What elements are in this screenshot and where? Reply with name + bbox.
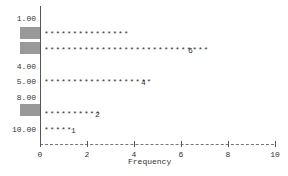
bar-row-5: ******************* [44,79,152,85]
x-tick [87,141,88,147]
x-tick [181,141,182,147]
y-label: 4.00 [17,62,36,71]
bar-row-7: ********** [44,111,101,117]
value-label: 1 [71,126,76,135]
x-tick-label: 8 [218,150,238,159]
bar-row-3: ***************************** [44,47,209,53]
y-label: 1.00 [17,14,36,23]
masked-label [20,27,40,39]
bar-row-2: *************** [44,31,130,37]
masked-label [20,42,40,54]
x-tick [134,141,135,147]
bar-row-8: ***** [44,127,73,133]
x-axis-title: Frequency [128,157,171,166]
masked-label [20,104,40,116]
y-axis [40,6,41,144]
x-axis [40,144,274,145]
x-tick-label: 10 [265,150,285,159]
y-label: 5.00 [17,77,36,86]
x-tick [40,141,41,147]
x-tick-label: 6 [171,150,191,159]
value-label: 4 [141,78,146,87]
x-tick-label: 0 [30,150,50,159]
y-label: 10.00 [12,125,36,134]
histogram-chart: 1.00 4.00 5.00 8.00 10.00 **************… [0,0,288,176]
x-tick-label: 2 [77,150,97,159]
value-label: 2 [95,110,100,119]
x-tick [228,141,229,147]
value-label: 6 [188,46,193,55]
y-label: 8.00 [17,93,36,102]
x-tick [275,141,276,147]
